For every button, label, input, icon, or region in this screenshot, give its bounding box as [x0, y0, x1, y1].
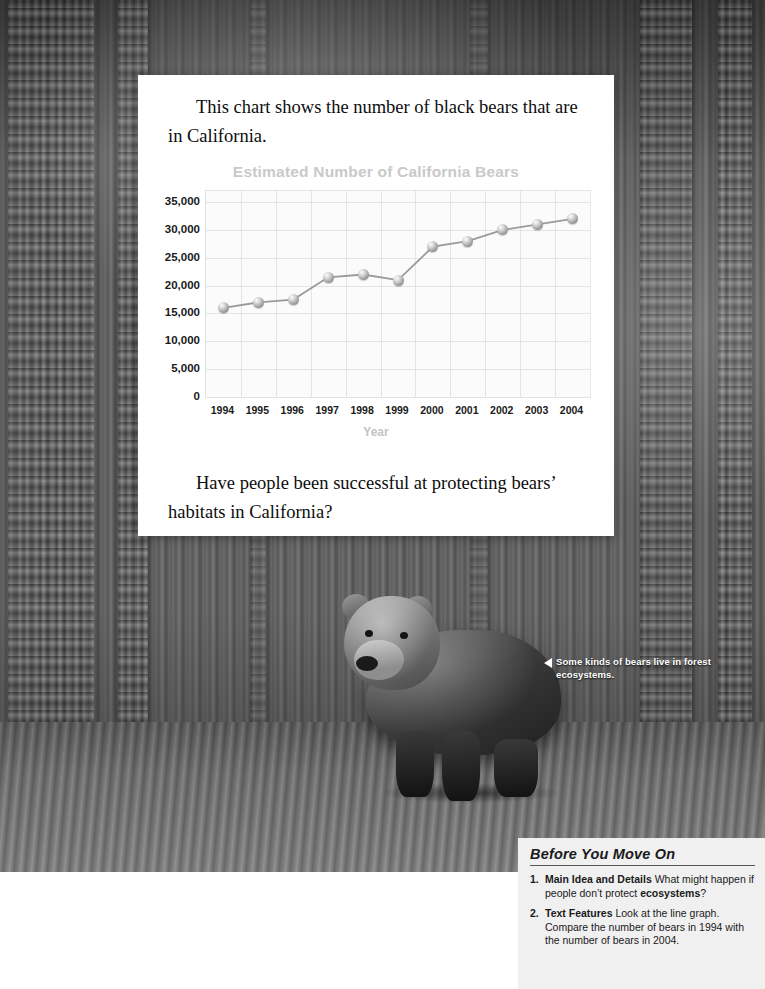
chart-data-point [393, 275, 404, 286]
y-axis-tick-label: 5,000 [138, 362, 200, 374]
y-axis-tick-label: 30,000 [138, 223, 200, 235]
line-chart: Estimated Number of California Bears Yea… [138, 163, 614, 448]
y-axis-tick-label: 20,000 [138, 279, 200, 291]
chart-gridline-horizontal [206, 397, 590, 398]
photo-caption-text: Some kinds of bears live in forest ecosy… [556, 656, 711, 680]
item-number: 1. [530, 873, 545, 900]
y-axis-tick-label: 35,000 [138, 195, 200, 207]
bear-leg-back [494, 739, 538, 797]
y-axis-tick-label: 25,000 [138, 251, 200, 263]
item-lead: Text Features [545, 907, 613, 919]
x-axis-tick-label: 2001 [455, 404, 478, 416]
chart-data-point [358, 269, 369, 280]
chart-data-point [253, 297, 264, 308]
x-axis-tick-label: 1994 [211, 404, 234, 416]
item-lead: Main Idea and Details [545, 873, 652, 885]
bear-eye-right [400, 632, 408, 639]
y-axis-tick-label: 0 [138, 390, 200, 402]
y-axis-tick-label: 15,000 [138, 306, 200, 318]
before-you-move-on-item: 1.Main Idea and Details What might happe… [530, 873, 755, 900]
left-triangle-icon [544, 658, 552, 668]
chart-data-point [532, 219, 543, 230]
x-axis-tick-label: 1999 [385, 404, 408, 416]
bear-leg-front-right [442, 731, 480, 801]
x-axis-tick-label: 1995 [246, 404, 269, 416]
item-bold-term: ecosystems [640, 887, 700, 899]
chart-plot-area [205, 190, 591, 398]
before-you-move-on-item: 2.Text Features Look at the line graph. … [530, 907, 755, 948]
before-you-move-on-list: 1.Main Idea and Details What might happe… [530, 873, 755, 948]
chart-title: Estimated Number of California Bears [138, 163, 614, 181]
bear-leg-front-left [396, 731, 434, 797]
x-axis-tick-label: 1996 [281, 404, 304, 416]
x-axis-title: Year [138, 425, 614, 439]
photo-caption: Some kinds of bears live in forest ecosy… [556, 656, 716, 681]
x-axis-tick-label: 1997 [315, 404, 338, 416]
item-text: Text Features Look at the line graph. Co… [545, 907, 755, 948]
x-axis-tick-label: 2002 [490, 404, 513, 416]
y-axis-tick-label: 10,000 [138, 334, 200, 346]
item-number: 2. [530, 907, 545, 948]
x-axis-tick-label: 2003 [525, 404, 548, 416]
x-axis-tick-label: 2004 [560, 404, 583, 416]
x-axis-tick-label: 1998 [350, 404, 373, 416]
before-you-move-on-title: Before You Move On [530, 846, 755, 866]
bear-illustration [318, 588, 568, 803]
content-card: This chart shows the number of black bea… [138, 75, 614, 536]
item-text: Main Idea and Details What might happen … [545, 873, 755, 900]
bear-nose [356, 656, 378, 671]
bear-eye-left [365, 630, 373, 637]
closing-question: Have people been successful at protectin… [168, 469, 598, 527]
before-you-move-on-box: Before You Move On 1.Main Idea and Detai… [518, 838, 765, 989]
chart-data-point [288, 294, 299, 305]
x-axis-tick-label: 2000 [420, 404, 443, 416]
chart-data-point [323, 272, 334, 283]
chart-data-point [462, 236, 473, 247]
intro-paragraph: This chart shows the number of black bea… [168, 93, 588, 151]
